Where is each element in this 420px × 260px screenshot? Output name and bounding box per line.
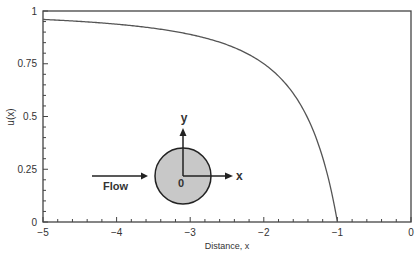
x-arrowhead-icon [225,173,233,180]
plot-frame [43,11,411,222]
x-axis: −5−4−3−2−10 [37,217,414,238]
cylinder-diagram: Flow y x 0 [92,111,243,204]
x-axis-label: Distance, x [205,241,250,251]
x-tick-label: −3 [184,227,196,238]
y-tick-label: 0 [31,217,37,228]
flow-label: Flow [103,180,128,192]
x-tick-label: −5 [37,227,49,238]
y-tick-label: 0.5 [23,111,37,122]
y-tick-label: 1 [31,6,37,17]
y-tick-label: 0.75 [18,58,38,69]
chart-container: 00.250.50.751 −5−4−3−2−10 u(x) Distance,… [0,0,420,260]
x-tick-label: −1 [332,227,344,238]
flow-arrowhead-icon [141,173,148,180]
x-tick-label: −2 [258,227,270,238]
y-axis-symbol: y [181,111,188,125]
velocity-profile-chart: 00.250.50.751 −5−4−3−2−10 u(x) Distance,… [0,0,420,260]
x-tick-label: −4 [111,227,123,238]
origin-label: 0 [178,177,184,189]
x-axis-symbol: x [236,169,243,183]
y-arrowhead-icon [180,128,187,136]
y-tick-label: 0.25 [18,164,38,175]
y-axis-label: u(x) [5,108,16,125]
x-tick-label: 0 [408,227,414,238]
